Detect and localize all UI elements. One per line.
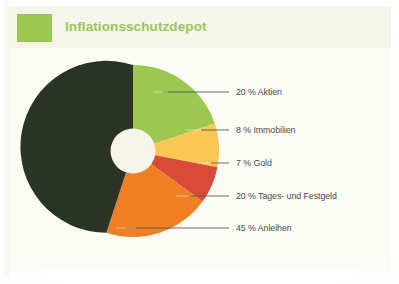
pie-label-gold: 7 % Gold <box>236 158 272 168</box>
pie-label-anleihen: 45 % Anleihen <box>236 223 292 233</box>
donut-hole <box>111 129 156 174</box>
page-root: Inflationsschutzdepot <box>0 0 399 284</box>
pie-label-tages-und-festgeld: 20 % Tages- und Festgeld <box>236 191 337 201</box>
pie-label-immobilien: 8 % Immobilien <box>236 125 295 135</box>
donut-chart: 20 % Aktien 8 % Immobilien 7 % Gold 20 %… <box>8 6 391 271</box>
page-edge-right <box>393 0 399 284</box>
donut-chart-svg <box>8 6 391 271</box>
infographic-card: Inflationsschutzdepot <box>8 6 391 271</box>
page-edge-left <box>0 0 9 284</box>
page-edge-bottom <box>0 276 399 284</box>
pie-label-aktien: 20 % Aktien <box>236 87 282 97</box>
